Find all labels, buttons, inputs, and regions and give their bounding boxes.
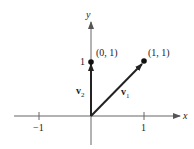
point-0-1: [88, 59, 94, 65]
x-axis-label: x: [182, 110, 188, 121]
point-label-1-1: (1, 1): [148, 47, 170, 59]
vector-diagram: x y −1 1 1 (0, 1) (1, 1) v2 v1: [0, 0, 194, 149]
point-1-1: [141, 58, 147, 64]
vector-label-v1: v1: [121, 86, 130, 100]
x-tick-label-1: 1: [141, 122, 146, 133]
point-label-0-1: (0, 1): [96, 47, 118, 59]
vector-label-v2: v2: [76, 85, 85, 99]
vector-label-v2-sub: 2: [81, 91, 85, 99]
y-axis-label: y: [85, 9, 91, 20]
vector-label-v1-sub: 1: [126, 92, 130, 100]
vector-v1: [91, 64, 142, 116]
x-tick-label-minus-1: −1: [33, 122, 44, 133]
y-tick-label-1: 1: [80, 56, 85, 67]
